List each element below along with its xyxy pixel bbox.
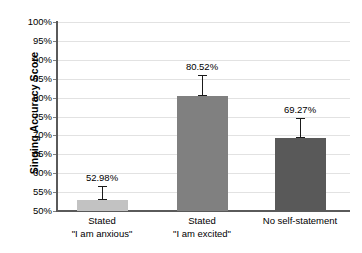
data-label: 80.52% <box>186 61 218 72</box>
x-axis-category-label-line2: "I am anxious" <box>72 227 133 240</box>
x-axis-category-label-line1: Stated <box>173 214 231 227</box>
error-bar <box>102 186 103 200</box>
x-axis-category-label-line1: No self-statement <box>263 214 337 227</box>
bar-chart: Singing Accuracy Score 100% 95% 90% 85% … <box>0 0 362 253</box>
bar <box>177 96 228 211</box>
x-axis-category-label: Stated"I am excited" <box>173 214 231 240</box>
y-tick-label: 95% <box>18 36 52 46</box>
gridline <box>57 79 350 80</box>
x-axis-category-label: Stated"I am anxious" <box>72 214 133 240</box>
y-tick-label: 55% <box>18 187 52 197</box>
error-bar-cap-top <box>198 75 207 76</box>
bar <box>77 200 128 211</box>
error-bar-cap-bottom <box>296 137 305 138</box>
error-bar-cap-top <box>98 186 107 187</box>
error-bar-cap-top <box>296 118 305 119</box>
error-bar-cap-bottom <box>198 95 207 96</box>
x-axis-category-label: No self-statement <box>263 214 337 227</box>
y-tick-label: 60% <box>18 168 52 178</box>
gridline <box>57 41 350 42</box>
x-axis-category-label-line1: Stated <box>72 214 133 227</box>
y-tick-label: 100% <box>18 17 52 27</box>
error-bar <box>300 118 301 138</box>
x-axis-category-label-line2: "I am excited" <box>173 227 231 240</box>
error-bar-cap-bottom <box>98 199 107 200</box>
gridline <box>57 22 350 23</box>
y-axis-tick-labels: 100% 95% 90% 85% 80% 75% 70% 65% 60% 55%… <box>16 0 52 253</box>
bar <box>275 138 326 211</box>
data-label: 69.27% <box>284 104 316 115</box>
y-tick-label: 85% <box>18 74 52 84</box>
y-tick-label: 75% <box>18 112 52 122</box>
data-label: 52.98% <box>86 172 118 183</box>
y-axis-line <box>56 21 58 211</box>
y-tick-label: 70% <box>18 130 52 140</box>
error-bar <box>202 75 203 96</box>
y-tick-label: 50% <box>18 206 52 216</box>
y-tick-label: 65% <box>18 149 52 159</box>
y-tick-label: 90% <box>18 55 52 65</box>
y-tick-label: 80% <box>18 93 52 103</box>
